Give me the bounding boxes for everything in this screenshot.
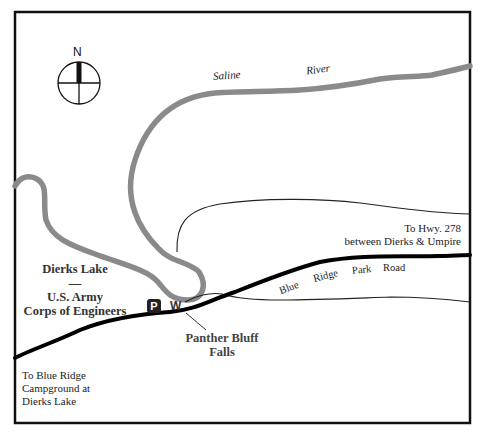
compass-north-label: N <box>73 45 82 59</box>
river-label-saline: Saline <box>213 68 241 82</box>
west-destination-line2: Campground at <box>22 382 90 395</box>
dierks-lake-label: Dierks Lake — U.S. Army Corps of Enginee… <box>16 262 134 318</box>
falls-pointer <box>186 313 206 330</box>
falls-name-line2: Falls <box>172 345 272 359</box>
lake-agency-line1: U.S. Army <box>16 290 134 304</box>
west-destination-label: To Blue Ridge Campground at Dierks Lake <box>22 369 90 408</box>
falls-name-line1: Panther Bluff <box>172 331 272 345</box>
lake-separator: — <box>16 276 134 290</box>
parking-icon: P <box>147 299 161 313</box>
lake-agency-line2: Corps of Engineers <box>16 304 134 318</box>
trail-map: N Saline River Dierks Lake — U.S. Army C… <box>0 0 479 435</box>
east-destination-line2: between Dierks & Umpire <box>345 235 461 248</box>
waterfall-marker-icon: W <box>170 299 181 313</box>
panther-bluff-falls-label: Panther Bluff Falls <box>172 331 272 359</box>
lake-name: Dierks Lake <box>16 262 134 276</box>
west-destination-line3: Dierks Lake <box>22 395 90 408</box>
road-label-road: Road <box>383 262 405 273</box>
map-border <box>15 12 470 423</box>
road-label-park: Park <box>352 263 372 276</box>
compass-icon <box>58 62 100 104</box>
west-destination-line1: To Blue Ridge <box>22 369 90 382</box>
east-destination-label: To Hwy. 278 between Dierks & Umpire <box>345 222 461 248</box>
east-destination-line1: To Hwy. 278 <box>345 222 461 235</box>
